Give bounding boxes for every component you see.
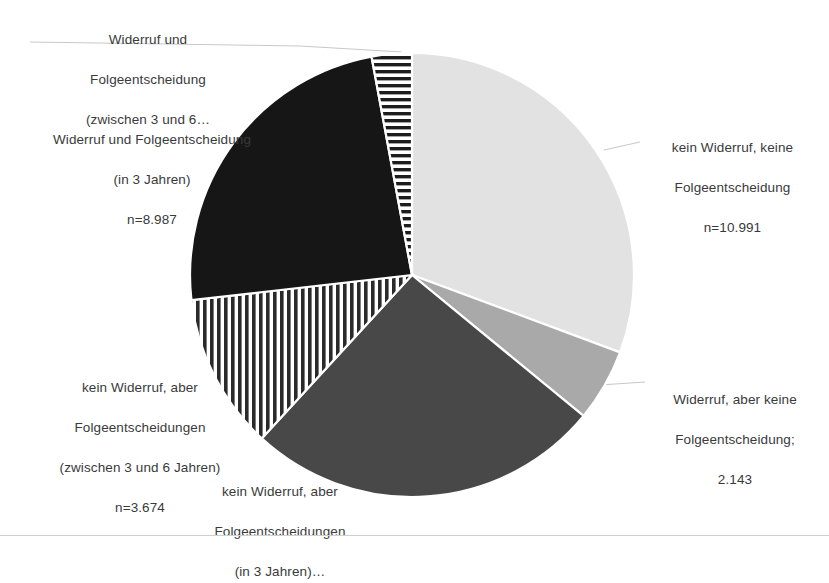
slice-label-widerruf-folge-3: Widerruf und Folgeentscheidung (in 3 Jah… [2,110,302,250]
bottom-divider [0,535,829,536]
label-line-3: (in 3 Jahren)… [140,562,420,582]
label-line-2: Folgeentscheidung [640,178,825,198]
label-line-2: Folgeentscheidung [18,70,278,90]
slice-label-widerruf-keine: Widerruf, aber keine Folgeentscheidung; … [645,370,825,510]
label-line-1: kein Widerruf, aber [5,378,275,398]
slice-label-kein-widerruf-keine: kein Widerruf, keine Folgeentscheidung n… [640,118,825,258]
label-line-2: (in 3 Jahren) [2,170,302,190]
label-line-1: kein Widerruf, aber [140,482,420,502]
label-line-2: Folgeentscheidungen [5,418,275,438]
leader-line-kein-widerruf-keine [604,142,640,150]
label-line-3: n=10.991 [640,218,825,238]
label-line-3: n=8.987 [2,210,302,230]
label-line-1: Widerruf, aber keine [645,390,825,410]
label-line-1: kein Widerruf, keine [640,138,825,158]
label-line-2: Folgeentscheidung; [645,430,825,450]
label-line-1: Widerruf und [18,30,278,50]
label-line-1: Widerruf und Folgeentscheidung [2,130,302,150]
slice-label-kein-widerruf-3: kein Widerruf, aber Folgeentscheidungen … [140,462,420,583]
label-line-3: 2.143 [645,470,825,490]
label-line-2: Folgeentscheidungen [140,522,420,542]
